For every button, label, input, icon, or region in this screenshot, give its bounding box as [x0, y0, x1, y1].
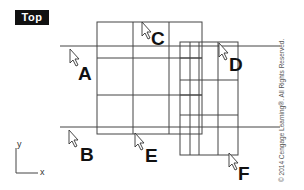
cursor-arrow-icon-F [229, 153, 238, 170]
callout-E: E [145, 146, 158, 165]
cursor-arrow-icon-C [142, 22, 151, 39]
copyright-notice: © 2014 Cengage Learning®. All Rights Res… [278, 39, 285, 182]
y-axis-label: y [17, 139, 22, 149]
callout-F: F [238, 164, 250, 183]
callout-D: D [229, 55, 243, 74]
callout-C: C [151, 29, 165, 48]
callout-B: B [80, 145, 94, 164]
cursor-arrow-icon-E [135, 133, 144, 150]
callout-A: A [78, 64, 92, 83]
x-axis-label: x [40, 167, 45, 177]
axis-indicator [16, 148, 38, 173]
cursor-arrow-icon-B [69, 130, 78, 147]
